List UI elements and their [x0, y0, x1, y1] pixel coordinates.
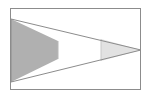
figure-canvas	[0, 0, 150, 99]
figure-svg	[0, 0, 150, 99]
